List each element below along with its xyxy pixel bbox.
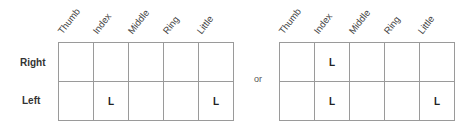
col-header-ring: Ring	[384, 0, 418, 42]
cell: L	[94, 82, 129, 121]
cell	[199, 43, 234, 82]
cell: L	[315, 43, 350, 82]
col-header-middle: Middle	[349, 0, 383, 42]
cell	[350, 43, 385, 82]
finger-table-1: L L	[58, 42, 234, 121]
cell	[129, 43, 164, 82]
col-header-index: Index	[93, 0, 127, 42]
cell	[164, 82, 199, 121]
cell	[385, 43, 420, 82]
col-header-ring: Ring	[163, 0, 197, 42]
or-separator: or	[254, 74, 262, 84]
cell	[59, 43, 94, 82]
cell: L	[199, 82, 234, 121]
cell: L	[315, 82, 350, 121]
col-header-index: Index	[314, 0, 348, 42]
cell	[94, 43, 129, 82]
col-header-little: Little	[418, 0, 452, 42]
table-row-right	[59, 43, 234, 82]
cell	[350, 82, 385, 121]
cell	[280, 43, 315, 82]
table-row-left: L L	[280, 82, 455, 121]
cell	[59, 82, 94, 121]
cell	[280, 82, 315, 121]
cell: L	[420, 82, 455, 121]
col-header-thumb: Thumb	[279, 0, 313, 42]
col-header-little: Little	[197, 0, 231, 42]
cell	[385, 82, 420, 121]
table-row-right: L	[280, 43, 455, 82]
table-row-left: L L	[59, 82, 234, 121]
row-label-right: Right	[20, 57, 46, 68]
cell	[164, 43, 199, 82]
finger-table-2: L L L	[279, 42, 455, 121]
cell	[129, 82, 164, 121]
cell	[420, 43, 455, 82]
row-label-left: Left	[22, 95, 40, 106]
col-header-middle: Middle	[128, 0, 162, 42]
col-header-thumb: Thumb	[58, 0, 92, 42]
